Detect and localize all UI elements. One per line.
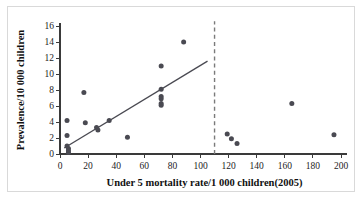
x-tick-label-100: 100 — [193, 161, 208, 171]
data-point — [65, 133, 70, 138]
y-tick-label-16: 16 — [45, 21, 55, 31]
y-tick-label-0: 0 — [49, 149, 54, 159]
data-point — [159, 64, 164, 69]
x-axis-title: Under 5 mortality rate/1 000 children(20… — [107, 177, 303, 189]
y-axis-title: Prevalence/10 000 children — [15, 30, 26, 151]
y-tick-label-8: 8 — [49, 85, 54, 95]
data-point — [159, 87, 164, 92]
x-tick-label-200: 200 — [334, 161, 349, 171]
data-point — [65, 118, 70, 123]
y-tick-label-14: 14 — [45, 37, 55, 47]
x-tick-label-140: 140 — [250, 161, 265, 171]
x-tick-label-160: 160 — [278, 161, 293, 171]
data-point — [225, 132, 230, 137]
data-point — [331, 132, 336, 137]
data-point — [159, 96, 164, 101]
data-point — [181, 40, 186, 45]
data-point — [159, 103, 164, 108]
figure-frame: 0246810121416020406080100120140160180200… — [7, 6, 355, 192]
x-tick-label-40: 40 — [111, 161, 121, 171]
x-tick-label-180: 180 — [306, 161, 321, 171]
x-tick-label-120: 120 — [221, 161, 236, 171]
data-point — [95, 128, 100, 133]
y-tick-label-10: 10 — [45, 69, 55, 79]
y-tick-label-2: 2 — [49, 133, 54, 143]
x-tick-label-80: 80 — [168, 161, 178, 171]
x-tick-label-20: 20 — [83, 161, 93, 171]
scatter-plot: 0246810121416020406080100120140160180200… — [8, 7, 354, 191]
data-point — [289, 101, 294, 106]
regression-line — [64, 61, 207, 148]
x-tick-label-60: 60 — [140, 161, 150, 171]
data-point — [66, 150, 71, 155]
x-tick-label-0: 0 — [58, 161, 63, 171]
data-point — [81, 90, 86, 95]
data-point — [107, 118, 112, 123]
series-countries — [65, 40, 337, 155]
data-point — [229, 136, 234, 141]
y-tick-label-6: 6 — [49, 101, 54, 111]
y-tick-label-12: 12 — [45, 53, 55, 63]
y-tick-label-4: 4 — [49, 117, 54, 127]
data-point — [235, 141, 240, 146]
data-point — [125, 135, 130, 140]
data-point — [83, 120, 88, 125]
